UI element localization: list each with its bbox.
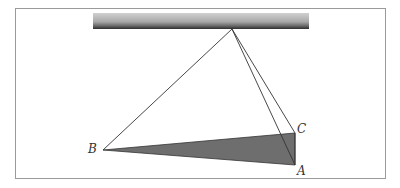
edge-apex-b (103, 29, 232, 150)
geometry-figure: B C A (0, 0, 400, 188)
label-a: A (296, 164, 306, 178)
shaded-face-abc (103, 133, 295, 165)
label-b: B (87, 142, 97, 156)
ceiling-bar (93, 13, 309, 29)
edge-apex-c (232, 29, 295, 133)
label-c: C (297, 122, 306, 136)
